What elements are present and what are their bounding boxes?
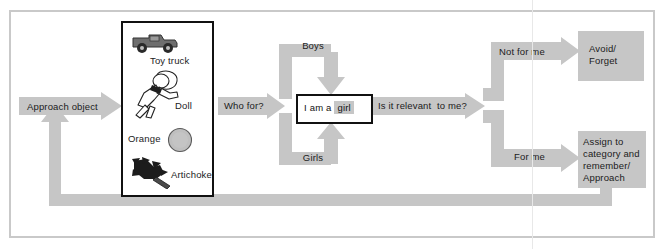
outcome-assign-category-box: Assign to category and remember/ Approac… [578, 131, 646, 188]
orange-icon [167, 127, 193, 157]
doll-icon [130, 67, 186, 123]
object-label-artichoke: Artichoke [171, 169, 212, 180]
page-seam [532, 0, 533, 249]
outcome-avoid-forget-label: Avoid/ Forget [589, 43, 617, 67]
for-me-label: For me [514, 151, 545, 163]
approach-object-label: Approach object [27, 101, 98, 113]
object-label-orange: Orange [128, 133, 161, 144]
who-for-label: Who for? [224, 100, 264, 112]
relevance-label: Is it relevant to me? [378, 100, 467, 112]
object-box: Toy truck Doll [121, 21, 214, 197]
girls-branch-label: Girls [290, 152, 336, 164]
boys-branch-label: Boys [290, 40, 336, 52]
not-for-me-label: Not for me [499, 46, 545, 58]
self-schema-prefix: I am a [304, 102, 334, 113]
object-label-toy-truck: Toy truck [150, 55, 189, 66]
artichoke-icon [130, 157, 176, 193]
self-schema-box: I am a girl [296, 94, 373, 124]
diagram-canvas: Approach object Toy truck [0, 0, 667, 249]
for-me-arrow [491, 110, 581, 172]
self-schema-text: I am a girl [304, 102, 354, 113]
self-schema-highlight: girl [334, 101, 353, 114]
object-label-doll: Doll [175, 100, 192, 111]
girls-branch-arrow [279, 122, 347, 178]
outcome-assign-category-label: Assign to category and remember/ Approac… [583, 136, 640, 184]
outcome-avoid-forget-box: Avoid/ Forget [578, 31, 644, 81]
